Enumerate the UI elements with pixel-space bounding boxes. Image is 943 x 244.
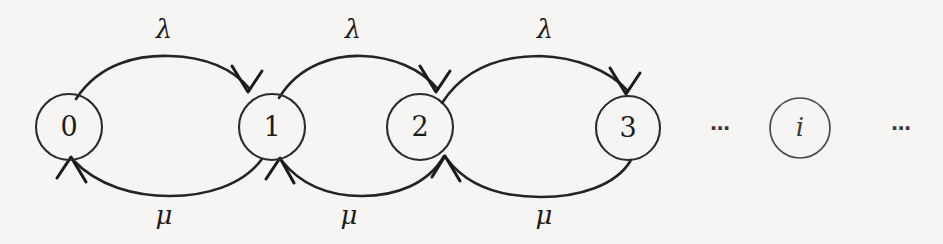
transition-arrival-2-3: λ bbox=[442, 14, 640, 103]
state-node-0[interactable]: 0 bbox=[36, 94, 102, 160]
state-transition-diagram-canvas: λ λ λ μ μ μ bbox=[0, 0, 943, 244]
state-label-1: 1 bbox=[263, 111, 280, 142]
arc-service-1-0 bbox=[73, 159, 262, 196]
arrowhead-arrival-1-2 bbox=[420, 66, 450, 92]
state-node-1[interactable]: 1 bbox=[239, 94, 305, 160]
state-label-2: 2 bbox=[411, 111, 428, 142]
arc-arrival-0-1 bbox=[76, 56, 250, 99]
rate-label-mu-2-1: μ bbox=[341, 200, 358, 230]
state-node-3[interactable]: 3 bbox=[596, 96, 660, 160]
arrowhead-arrival-2-3 bbox=[610, 68, 640, 94]
ellipsis-left-icon: ⋯ bbox=[710, 116, 732, 140]
state-label-i: i bbox=[796, 112, 804, 142]
arc-service-2-1 bbox=[282, 156, 444, 196]
arrowhead-arrival-0-1 bbox=[232, 66, 262, 92]
state-label-0: 0 bbox=[60, 111, 77, 142]
arc-arrival-2-3 bbox=[442, 56, 628, 103]
ellipsis-right-icon: ⋯ bbox=[891, 116, 913, 140]
rate-label-mu-1-0: μ bbox=[156, 200, 173, 230]
arc-arrival-1-2 bbox=[279, 56, 438, 98]
markov-chain-diagram: λ λ λ μ μ μ bbox=[0, 0, 943, 244]
transition-arrival-0-1: λ bbox=[76, 14, 262, 99]
transition-arrival-1-2: λ bbox=[279, 14, 450, 98]
transition-service-3-2: μ bbox=[432, 156, 631, 230]
rate-label-lambda-1-2: λ bbox=[344, 14, 361, 44]
transition-service-2-1: μ bbox=[266, 156, 444, 230]
state-node-2[interactable]: 2 bbox=[387, 94, 453, 160]
state-label-3: 3 bbox=[619, 112, 636, 143]
rate-label-lambda-0-1: λ bbox=[155, 14, 172, 44]
arc-service-3-2 bbox=[447, 159, 631, 197]
state-node-i[interactable]: i bbox=[770, 98, 830, 158]
rate-label-lambda-2-3: λ bbox=[536, 14, 553, 44]
rate-label-mu-3-2: μ bbox=[536, 200, 553, 230]
transition-service-1-0: μ bbox=[57, 157, 262, 230]
